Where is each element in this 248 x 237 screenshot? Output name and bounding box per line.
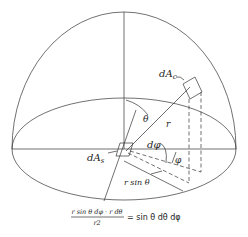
dAc-label: dAc bbox=[159, 68, 177, 81]
dAc-leader bbox=[176, 77, 184, 80]
r-label: r bbox=[166, 119, 171, 129]
phi-label: φ bbox=[175, 155, 182, 165]
dphi-leader bbox=[160, 143, 166, 163]
hemisphere-diagram: dAc θ r dφ φ dAs r sin θ r sin θ dφ · r … bbox=[0, 0, 248, 237]
theta-arc bbox=[126, 100, 148, 115]
r-sin-theta-label: r sin θ bbox=[124, 178, 150, 187]
dAc-patch bbox=[183, 77, 202, 99]
projection-line-2 bbox=[130, 151, 201, 172]
theta-label: θ bbox=[143, 114, 149, 124]
dAs-label: dAs bbox=[87, 152, 105, 165]
equation-numerator: r sin θ dφ · r dθ bbox=[72, 208, 123, 216]
r-sin-theta-tick bbox=[151, 171, 162, 174]
meridian-line bbox=[104, 110, 136, 201]
equation-rhs: = sin θ dθ dφ bbox=[127, 213, 181, 222]
dphi-label: dφ bbox=[147, 139, 160, 150]
equation-denominator: r2 bbox=[93, 219, 100, 227]
dAs-leader bbox=[108, 151, 117, 153]
